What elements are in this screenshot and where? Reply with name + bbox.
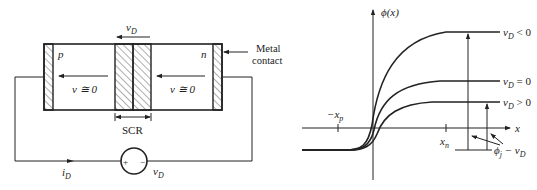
metal-contact-left <box>44 44 53 110</box>
p-region-label: p <box>57 48 64 60</box>
wire-left <box>15 77 121 161</box>
wire-right <box>147 77 252 161</box>
barrier-label: ϕj − vD <box>494 144 526 159</box>
metal-contact-label-2: contact <box>252 55 282 66</box>
curve-label-vd-zero: vD = 0 <box>503 75 531 90</box>
current-arrow <box>67 159 74 163</box>
potential-graph: ϕ(x) x −xp xn vD < 0 vD = 0 vD > 0 ϕj − … <box>302 6 531 180</box>
pn-junction-figure: p n vD v ≅ 0 v ≅ 0 SCR Metal contact iD … <box>0 0 537 190</box>
curve-label-vd-negative: vD < 0 <box>503 26 531 41</box>
source-label: vD <box>153 165 164 180</box>
metal-contact-label-1: Metal <box>256 43 281 54</box>
device-diagram: p n vD v ≅ 0 v ≅ 0 SCR Metal contact iD … <box>15 21 282 181</box>
tick-neg-xp-label: −xp <box>327 108 343 123</box>
n-region-label: n <box>201 48 207 60</box>
y-axis-label: ϕ(x) <box>381 6 399 19</box>
scr-p-side <box>115 44 133 110</box>
curve-label-vd-positive: vD > 0 <box>503 96 531 111</box>
tick-xn-label: xn <box>439 135 449 150</box>
scr-n-side <box>133 44 151 110</box>
field-right-label: v ≅ 0 <box>170 83 195 95</box>
source-minus: − <box>140 157 145 167</box>
current-label: iD <box>62 166 71 181</box>
field-left-label: v ≅ 0 <box>72 83 97 95</box>
vd-top-label: vD <box>126 21 137 36</box>
x-axis-label: x <box>514 122 520 134</box>
metal-contact-right <box>213 44 222 110</box>
scr-label: SCR <box>122 124 143 136</box>
source-plus: + <box>123 157 128 167</box>
